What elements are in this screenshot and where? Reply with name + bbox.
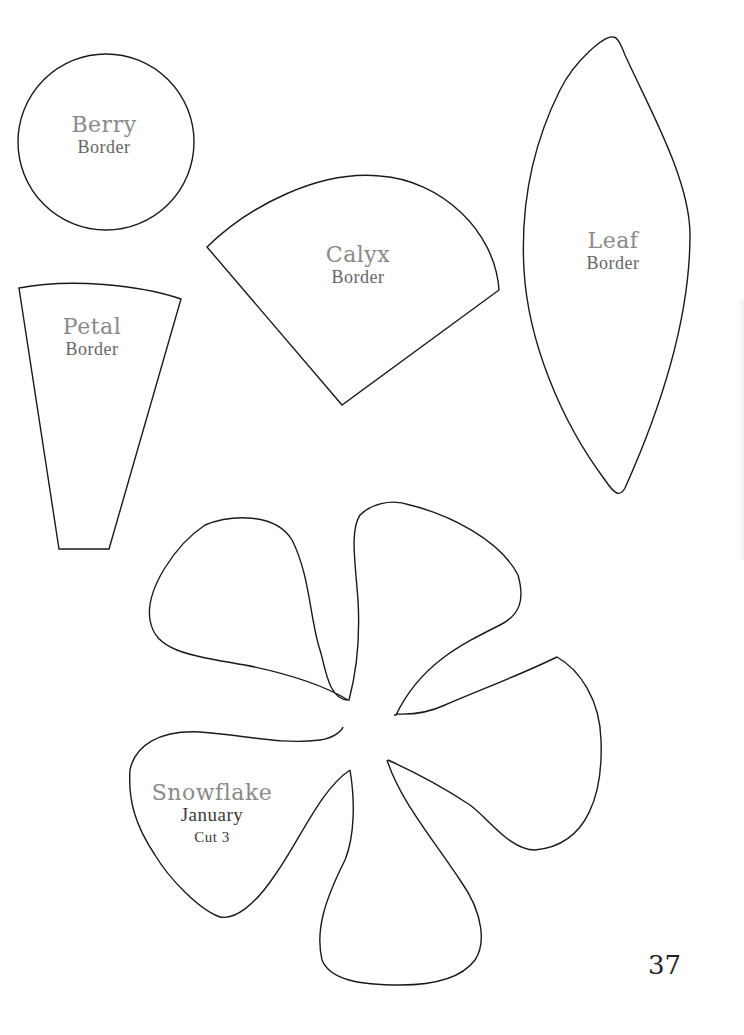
snowflake-cut-instruction: Cut 3 bbox=[152, 826, 272, 848]
leaf-label: Leaf Border bbox=[587, 230, 640, 274]
page-edge-shadow bbox=[738, 300, 744, 560]
leaf-subtitle: Border bbox=[587, 252, 640, 274]
berry-subtitle: Border bbox=[71, 136, 136, 158]
berry-label: Berry Border bbox=[71, 114, 136, 158]
calyx-border-shape bbox=[207, 175, 499, 405]
petal-label: Petal Border bbox=[63, 316, 121, 360]
snowflake-shape bbox=[149, 518, 348, 700]
snowflake-petal-top bbox=[349, 502, 521, 715]
page-number: 37 bbox=[648, 950, 681, 980]
calyx-subtitle: Border bbox=[326, 266, 390, 288]
calyx-name: Calyx bbox=[326, 244, 390, 266]
snowflake-name: Snowflake bbox=[152, 782, 272, 804]
petal-subtitle: Border bbox=[63, 338, 121, 360]
calyx-label: Calyx Border bbox=[326, 244, 390, 288]
leaf-name: Leaf bbox=[587, 230, 640, 252]
snowflake-label: Snowflake January Cut 3 bbox=[152, 782, 272, 848]
petal-name: Petal bbox=[63, 316, 121, 338]
pattern-page: Berry Border Calyx Border Leaf Border Pe… bbox=[0, 0, 744, 1035]
snowflake-petal-bottom bbox=[320, 760, 481, 985]
berry-name: Berry bbox=[71, 114, 136, 136]
snowflake-subtitle: January bbox=[152, 804, 272, 826]
